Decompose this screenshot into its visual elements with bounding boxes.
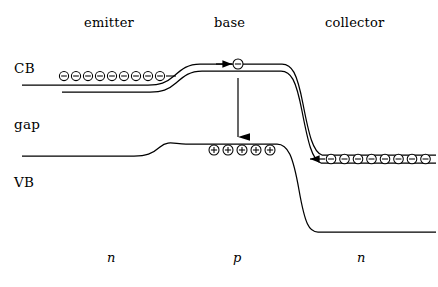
collector-electron-icon — [340, 154, 350, 164]
band-label-cb: CB — [14, 62, 35, 76]
emitter-electron-icon — [107, 71, 116, 80]
doping-label-p: p — [233, 251, 241, 264]
collector-electron-icon — [394, 154, 404, 164]
collector-electron-icon — [353, 154, 363, 164]
base-hole-icon — [251, 145, 261, 155]
band-label-gap: gap — [14, 118, 40, 132]
collector-electron-icon — [380, 154, 390, 164]
emitter-electron-icon — [71, 71, 80, 80]
emitter-electron-icon — [59, 71, 68, 80]
base-hole-icon — [237, 145, 247, 155]
region-label-collector: collector — [325, 16, 384, 29]
region-label-base: base — [214, 16, 245, 29]
base-electron-icon — [233, 59, 243, 69]
collector-electron-icon — [407, 154, 417, 164]
base-hole-icon — [209, 145, 219, 155]
band-label-vb: VB — [14, 176, 34, 190]
region-label-emitter: emitter — [84, 16, 134, 29]
doping-label-n: n — [357, 251, 365, 264]
emitter-electron-icon — [119, 71, 128, 80]
emitter-electron-icon — [95, 71, 104, 80]
collector-electron-icon — [326, 154, 336, 164]
emitter-electron-icon — [143, 71, 152, 80]
band-diagram-canvas — [0, 0, 438, 287]
base-hole-icon — [223, 145, 233, 155]
collector-electron-icon — [421, 154, 431, 164]
emitter-electron-icon — [83, 71, 92, 80]
charge-carriers-layer — [59, 59, 430, 164]
collector-electron-icon — [367, 154, 377, 164]
doping-label-n: n — [107, 251, 115, 264]
band-diagram-figure: emitterbasecollector CBgapVB npn — [0, 0, 438, 287]
emitter-electron-icon — [131, 71, 140, 80]
emitter-electron-icon — [155, 71, 164, 80]
base-hole-icon — [265, 145, 275, 155]
